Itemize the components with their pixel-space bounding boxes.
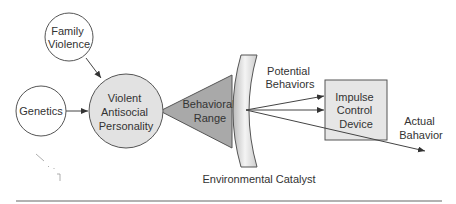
environmental-catalyst-label: Environmental Catalyst <box>202 173 315 185</box>
family-violence-node <box>45 13 93 61</box>
environmental-catalyst-arc <box>233 55 257 167</box>
actual-behavior-label: Actual Bahavior <box>399 115 443 141</box>
arrow-potential-1 <box>246 96 324 110</box>
diagram: Family Violence Genetics Violent Antisoc… <box>0 0 456 204</box>
genetics-label: Genetics <box>19 105 63 117</box>
family-violence-label: Family Violence <box>48 25 90 50</box>
stray-marks <box>36 154 60 181</box>
potential-behaviors-label: Potential Behaviors <box>266 65 315 90</box>
impulse-control-label: Impulse Control Device <box>335 91 377 130</box>
arrow-family-to-personality <box>86 58 101 78</box>
